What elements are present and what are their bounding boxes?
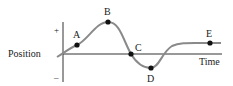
point-A	[74, 42, 79, 47]
point-E	[207, 40, 212, 45]
point-C	[128, 51, 133, 56]
point-D	[148, 65, 153, 70]
label-C: C	[135, 42, 142, 53]
label-D: D	[147, 73, 154, 84]
x-axis-label: Time	[199, 56, 220, 67]
label-B: B	[104, 6, 111, 17]
minus-sign: –	[53, 72, 59, 82]
y-axis-label: Position	[8, 48, 41, 59]
point-B	[105, 19, 110, 24]
label-A: A	[73, 29, 81, 40]
plus-sign: +	[54, 25, 59, 35]
position-time-diagram: A B C D E + – Position Time	[0, 0, 233, 86]
label-E: E	[206, 28, 212, 39]
